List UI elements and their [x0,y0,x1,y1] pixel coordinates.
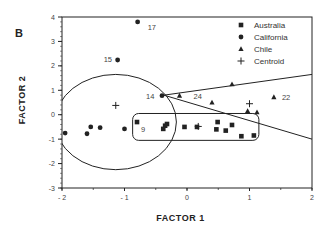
x-tick-label: 0 [185,194,189,201]
y-tick-label: -3 [49,185,55,192]
y-tick-label: 3 [51,38,55,45]
data-point-australia [165,122,170,127]
point-annotation: 22 [282,93,290,102]
y-tick-label: 0 [51,111,55,118]
data-point-australia [135,120,140,125]
legend-label: Chile [254,45,273,54]
y-tick-label: 2 [51,62,55,69]
data-point-australia [230,123,235,128]
group-ellipse [55,74,176,169]
x-tick-label: - 1 [120,194,128,201]
data-point-australia [215,120,220,125]
y-tick-label: 1 [51,87,55,94]
data-point-chile [271,94,276,99]
point-annotation: 14 [146,92,154,101]
legend-marker-australia [239,23,244,28]
x-axis-label: FACTOR 1 [0,213,331,223]
point-annotation: 15 [104,55,112,64]
x-tick-label: 1 [248,194,252,201]
legend-label: Australia [254,21,286,30]
group-wedge [164,74,312,139]
data-point-australia [239,134,244,139]
data-point-california [85,131,90,136]
data-point-chile [245,108,250,113]
y-tick-label: -2 [49,160,55,167]
data-point-california [88,125,93,130]
data-point-california [63,131,68,136]
data-point-chile [254,109,259,114]
point-annotation: 9 [141,125,145,134]
data-point-australia [214,127,219,132]
y-axis-label: FACTOR 2 [17,70,27,130]
legend-marker-chile [238,46,243,51]
legend-label: California [254,33,288,42]
scatter-chart: B - 2- 1012-3-2-10123417151424229Austral… [0,0,331,237]
point-annotation: 17 [148,23,156,32]
data-point-california [160,93,165,98]
data-point-chile [229,81,234,86]
panel-label: B [15,27,23,39]
data-point-australia [161,127,166,132]
legend-marker-california [239,35,244,40]
legend-label: Centroid [254,57,284,66]
data-point-california [122,126,127,131]
point-annotation: 24 [194,92,202,101]
plot-area: - 2- 1012-3-2-10123417151424229Australia… [0,0,331,237]
data-point-australia [252,133,257,138]
data-point-california [98,125,103,130]
data-point-california [135,19,140,24]
y-tick-label: -1 [49,136,55,143]
data-point-australia [223,128,228,133]
x-tick-label: 2 [310,194,314,201]
data-point-australia [182,125,187,130]
data-point-chile [209,100,214,105]
data-point-california [115,58,120,63]
y-tick-label: 4 [51,14,55,21]
x-tick-label: - 2 [58,194,66,201]
